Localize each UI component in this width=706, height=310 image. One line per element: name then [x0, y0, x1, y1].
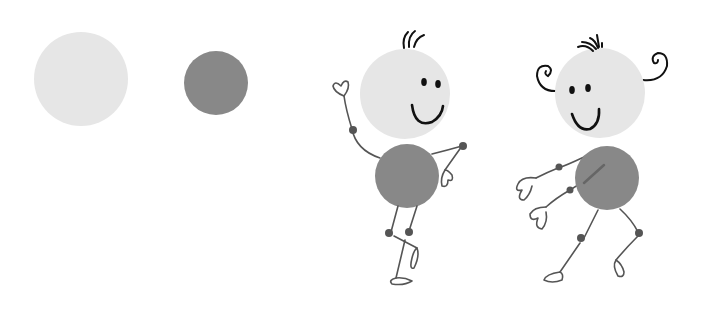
figure-waving [333, 31, 467, 285]
illustration-canvas [0, 0, 706, 310]
dark-gray-circle [184, 51, 248, 115]
head-circle [360, 49, 450, 139]
body-circle [575, 146, 639, 210]
head-circle [555, 48, 645, 138]
light-gray-circle [34, 32, 128, 126]
figure-curly [517, 35, 667, 282]
body-circle [375, 144, 439, 208]
